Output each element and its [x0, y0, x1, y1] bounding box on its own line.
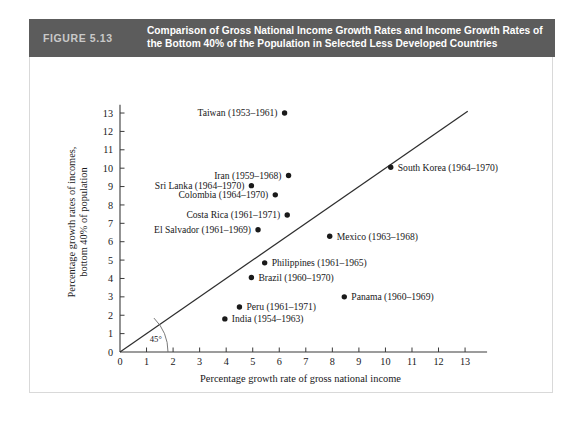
x-axis-tick-label: 4 — [224, 356, 229, 367]
data-point-label: India (1954–1963) — [232, 313, 304, 325]
y-axis-tick-label: 6 — [108, 236, 113, 247]
y-axis-tick-label: 0 — [108, 347, 113, 358]
x-axis-tick-label: 7 — [303, 356, 308, 367]
data-point — [282, 110, 287, 115]
data-point — [262, 260, 267, 265]
data-point — [222, 316, 227, 321]
data-point-label: Panama (1960–1969) — [351, 291, 433, 303]
data-point — [273, 192, 278, 197]
y-axis-tick-label: 13 — [103, 108, 113, 119]
data-point-label: El Salvador (1961–1969) — [154, 224, 251, 236]
x-axis-tick-label: 11 — [407, 356, 417, 367]
y-axis-tick-label: 2 — [108, 310, 113, 321]
y-axis-tick-label: 3 — [108, 291, 113, 302]
y-axis-tick-label: 4 — [108, 273, 113, 284]
x-axis-tick-label: 8 — [330, 356, 335, 367]
y-axis-tick-label: 8 — [108, 200, 113, 211]
data-point — [249, 183, 254, 188]
forty-five-degree-label: 45° — [150, 334, 163, 344]
figure-header-bar: FIGURE 5.13 Comparison of Gross National… — [29, 19, 555, 57]
figure-title-line-2: the Bottom 40% of the Population in Sele… — [147, 38, 497, 49]
y-axis-tick-label: 10 — [103, 163, 113, 174]
x-axis-tick-label: 0 — [117, 356, 122, 367]
x-axis-tick-label: 12 — [433, 356, 443, 367]
x-axis-tick-label: 9 — [356, 356, 361, 367]
data-point — [388, 165, 393, 170]
scatter-plot: 01234567891011121301234567891011121345°T… — [29, 57, 553, 393]
x-axis-title: Percentage growth rate of gross national… — [200, 373, 401, 384]
x-axis-tick-label: 5 — [250, 356, 255, 367]
y-axis-tick-label: 5 — [108, 255, 113, 266]
data-point — [327, 233, 332, 238]
data-point-label: Philippines (1961–1965) — [272, 257, 367, 269]
x-axis-tick-label: 6 — [277, 356, 282, 367]
data-point-label: Peru (1961–1971) — [246, 301, 316, 313]
data-point-label: Brazil (1960–1970) — [258, 272, 333, 284]
figure-title: Comparison of Gross National Income Grow… — [147, 25, 555, 50]
y-axis-tick-label: 9 — [108, 181, 113, 192]
data-point-label: Mexico (1963–1968) — [337, 231, 418, 243]
data-point-label: Colombia (1964–1970) — [178, 189, 268, 201]
x-axis-tick-label: 1 — [144, 356, 149, 367]
x-axis-tick-label: 3 — [197, 356, 202, 367]
x-axis-tick-label: 2 — [171, 356, 176, 367]
data-point — [286, 173, 291, 178]
y-axis-tick-label: 1 — [108, 328, 113, 339]
y-axis-title-line-1: Percentage growth rates of incomes, — [66, 147, 77, 298]
y-axis-tick-label: 7 — [108, 218, 113, 229]
figure-title-line-1: Comparison of Gross National Income Grow… — [147, 25, 543, 36]
figure-number-label: FIGURE 5.13 — [29, 32, 147, 44]
x-axis-tick-label: 13 — [460, 356, 470, 367]
data-point — [249, 275, 254, 280]
data-point — [342, 294, 347, 299]
x-axis-tick-label: 10 — [380, 356, 390, 367]
data-point — [255, 227, 260, 232]
figure-root: FIGURE 5.13 Comparison of Gross National… — [0, 0, 588, 422]
data-point-label: South Korea (1964–1970) — [398, 162, 498, 174]
y-axis-tick-label: 11 — [103, 144, 113, 155]
y-axis-title-line-2: bottom 40% of population — [78, 167, 89, 277]
y-axis-tick-label: 12 — [103, 126, 113, 137]
data-point-label: Costa Rica (1961–1971) — [186, 209, 280, 221]
data-point — [285, 212, 290, 217]
data-point-label: Taiwan (1953–1961) — [198, 107, 278, 119]
data-point — [237, 304, 242, 309]
